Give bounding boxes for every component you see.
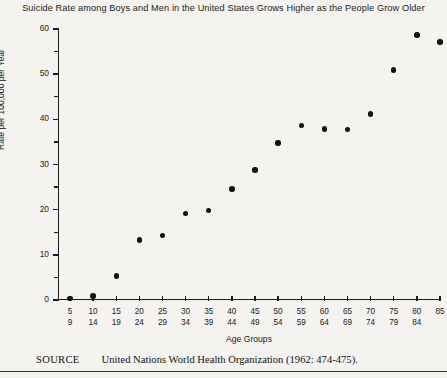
y-tick-label: 10 [40, 249, 49, 259]
y-tick-label: 0 [44, 294, 49, 304]
plot-area: 0102030405060 59101415192024252930343539… [58, 29, 440, 300]
data-point [90, 293, 95, 298]
y-tick-mark [54, 96, 59, 97]
data-point [414, 32, 419, 37]
x-tick-mark [208, 296, 209, 301]
x-tick-label-end: 34 [175, 318, 197, 327]
x-tick-label-start: 45 [244, 307, 266, 316]
data-point [160, 233, 165, 238]
x-tick-label-start: 70 [360, 307, 382, 316]
y-tick-label: 40 [40, 113, 49, 123]
x-tick-label-end: 19 [105, 318, 127, 327]
x-tick-label-end: 69 [337, 318, 359, 327]
y-axis-label: Rate per 100,000 per Year [0, 49, 6, 150]
x-tick-label-start: 10 [82, 307, 104, 316]
data-point [391, 67, 396, 72]
data-point [114, 273, 119, 278]
x-tick-label-end: 84 [406, 318, 428, 327]
data-point [322, 126, 327, 131]
x-tick-label-start: 40 [221, 307, 243, 316]
x-tick-label-start: 20 [128, 307, 150, 316]
data-point [437, 39, 442, 44]
source-label: SOURCE [36, 354, 80, 365]
x-tick-mark [254, 296, 255, 301]
x-tick-mark [185, 296, 186, 301]
x-tick-label-end: 64 [313, 318, 335, 327]
x-tick-label-start: 30 [175, 307, 197, 316]
x-tick-mark [301, 296, 302, 301]
data-point [275, 140, 280, 145]
data-point [137, 237, 142, 242]
x-tick-mark [116, 296, 117, 301]
x-tick-label-start: 65 [337, 307, 359, 316]
data-point [368, 111, 373, 116]
x-tick-label-start: 50 [267, 307, 289, 316]
x-tick-mark [439, 296, 440, 301]
data-point [183, 211, 188, 216]
data-point [299, 123, 304, 128]
y-tick-mark [54, 141, 59, 142]
figure-container: Suicide Rate among Boys and Men in the U… [0, 0, 447, 378]
x-tick-label-end: 14 [82, 318, 104, 327]
chart-title: Suicide Rate among Boys and Men in the U… [0, 3, 447, 13]
x-tick-label-start: 5 [59, 307, 81, 316]
y-tick-mark [54, 232, 59, 233]
x-tick-label-end: 24 [128, 318, 150, 327]
x-tick-label-start: 85 [429, 307, 447, 316]
data-point [345, 127, 350, 132]
x-tick-label-end: 54 [267, 318, 289, 327]
x-tick-label-end: 29 [152, 318, 174, 327]
x-tick-label-end: 74 [360, 318, 382, 327]
x-tick-label-start: 75 [383, 307, 405, 316]
y-tick-mark [53, 119, 59, 120]
source-note: SOURCEUnited Nations World Health Organi… [36, 354, 437, 365]
x-tick-label-start: 80 [406, 307, 428, 316]
x-tick-label-start: 55 [290, 307, 312, 316]
y-tick-mark [53, 73, 59, 74]
y-tick-label: 30 [40, 159, 49, 169]
x-tick-mark [324, 296, 325, 301]
y-tick-mark [53, 299, 59, 300]
y-tick-mark [53, 28, 59, 29]
x-tick-mark [139, 296, 140, 301]
y-tick-mark [54, 277, 59, 278]
x-tick-mark [231, 296, 232, 301]
y-tick-mark [53, 164, 59, 165]
x-tick-label-end: 49 [244, 318, 266, 327]
y-tick-label: 20 [40, 204, 49, 214]
x-tick-mark [370, 296, 371, 301]
y-tick-mark [54, 186, 59, 187]
x-tick-label-end: 9 [59, 318, 81, 327]
x-tick-label-start: 25 [152, 307, 174, 316]
x-tick-label-start: 15 [105, 307, 127, 316]
x-tick-mark [162, 296, 163, 301]
x-tick-mark [347, 296, 348, 301]
data-point [229, 186, 234, 191]
x-tick-label-end: 39 [198, 318, 220, 327]
y-tick-mark [54, 51, 59, 52]
x-axis-label: Age Groups [58, 334, 440, 344]
x-tick-label-start: 35 [198, 307, 220, 316]
x-tick-label-start: 60 [313, 307, 335, 316]
bottom-rule [0, 371, 447, 372]
y-tick-mark [53, 254, 59, 255]
x-tick-label-end: 44 [221, 318, 243, 327]
x-tick-mark [393, 296, 394, 301]
x-tick-label-end: 59 [290, 318, 312, 327]
y-tick-label: 60 [40, 23, 49, 33]
data-point [252, 167, 257, 172]
data-point [67, 296, 72, 301]
x-tick-label-end: 79 [383, 318, 405, 327]
x-tick-mark [416, 296, 417, 301]
x-tick-mark [277, 296, 278, 301]
source-text: United Nations World Health Organization… [102, 354, 358, 365]
y-tick-label: 50 [40, 68, 49, 78]
y-tick-mark [53, 209, 59, 210]
data-point [206, 208, 211, 213]
